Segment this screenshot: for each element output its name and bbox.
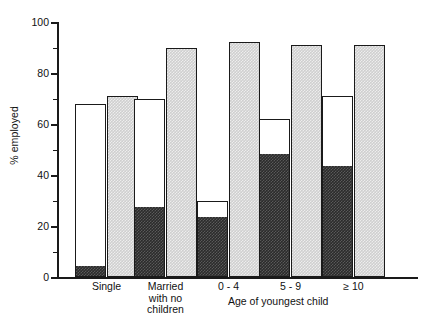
y-tick-label: 80 — [37, 68, 49, 79]
y-tick-major — [51, 226, 57, 228]
y-axis-title-text: % employed — [8, 106, 20, 165]
x-axis-title: Age of youngest child — [228, 295, 328, 307]
y-tick-label: 40 — [37, 170, 49, 181]
y-tick-major — [51, 124, 57, 126]
y-tick-minor — [53, 150, 57, 152]
bar-comparison — [229, 42, 260, 277]
y-tick-major — [51, 175, 57, 177]
y-tick-minor — [53, 252, 57, 254]
y-axis-title: % employed — [8, 0, 20, 106]
y-tick-major — [51, 22, 57, 24]
x-axis-line — [57, 277, 418, 279]
bar-stacked-employed — [75, 104, 106, 277]
bar-comparison — [291, 45, 322, 277]
bar-stacked-employed — [197, 201, 228, 278]
y-tick-major — [51, 73, 57, 75]
bar-stacked-employed — [259, 119, 290, 277]
bar-group — [322, 22, 385, 277]
y-tick-major — [51, 277, 57, 279]
y-tick-minor — [53, 48, 57, 50]
bar-segment-fulltime — [198, 217, 227, 276]
bar-segment-fulltime — [260, 154, 289, 276]
bar-comparison — [166, 48, 197, 278]
y-tick-label: 20 — [37, 221, 49, 232]
bar-stacked-employed — [134, 99, 165, 278]
y-tick-minor — [53, 99, 57, 101]
y-tick-label: 100 — [31, 17, 49, 28]
bar-stacked-employed — [322, 96, 353, 277]
x-tick-label: ≥ 10 — [309, 281, 399, 293]
y-tick-label: 60 — [37, 119, 49, 130]
chart-figure: % employed 020406080100 SingleMarried wi… — [0, 0, 421, 325]
bar-group — [75, 22, 138, 277]
bar-group — [259, 22, 322, 277]
bar-segment-fulltime — [135, 207, 164, 276]
y-tick-label: 0 — [43, 272, 49, 283]
bar-group — [197, 22, 260, 277]
plot-area: 020406080100 — [57, 22, 417, 277]
bar-segment-fulltime — [76, 266, 105, 276]
bar-group — [134, 22, 197, 277]
y-tick-minor — [53, 201, 57, 203]
bar-comparison — [354, 45, 385, 277]
bar-segment-fulltime — [323, 166, 352, 276]
y-axis-line — [57, 22, 59, 277]
